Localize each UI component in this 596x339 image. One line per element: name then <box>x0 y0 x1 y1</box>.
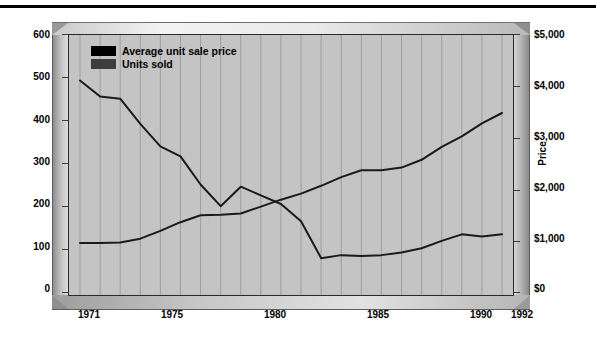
axis-tick-right <box>513 292 520 293</box>
legend-swatch-price <box>91 46 116 56</box>
x-tick-label: 1992 <box>502 309 542 320</box>
x-tick-label: 1975 <box>152 309 192 320</box>
legend-item: Units sold <box>91 58 237 70</box>
legend-label: Units sold <box>122 58 173 70</box>
series-lines <box>80 81 502 259</box>
x-axis-ticks: 1971 1975 1980 1985 1990 1992 <box>0 309 596 325</box>
x-tick-label: 1971 <box>69 309 109 320</box>
gridlines <box>80 35 502 295</box>
axis-tick-right <box>513 34 520 35</box>
y2-tick-label: $2,000 <box>534 182 582 193</box>
y-tick-label: 0 <box>10 283 50 294</box>
plot-area: Average unit sale price Units sold <box>68 34 514 296</box>
chart-figure: 600 500 400 300 200 100 0 Annual Unit Vo… <box>0 0 596 339</box>
y-tick-label: 200 <box>10 198 50 209</box>
y2-tick-label: $4,000 <box>534 80 582 91</box>
frame-bottom-slab <box>52 295 530 310</box>
series-line <box>80 81 502 259</box>
plot-canvas <box>69 35 513 295</box>
y-tick-label: 100 <box>10 241 50 252</box>
axis-tick-right <box>513 190 520 191</box>
header-rule <box>0 5 596 8</box>
y2-tick-label: $0 <box>534 283 582 294</box>
legend-item: Average unit sale price <box>91 45 237 57</box>
frame-right-wall <box>513 22 530 310</box>
x-tick-label: 1985 <box>358 309 398 320</box>
chart-3d-frame: Average unit sale price Units sold <box>52 22 530 310</box>
frame-left-wall <box>52 22 69 310</box>
y-axis-left-ticks: 600 500 400 300 200 100 0 <box>8 0 50 339</box>
y-tick-label: 300 <box>10 156 50 167</box>
axis-tick-right <box>513 138 520 139</box>
axis-tick-right <box>513 241 520 242</box>
x-tick-label: 1990 <box>461 309 501 320</box>
y2-tick-label: $1,000 <box>534 233 582 244</box>
y-tick-label: 500 <box>10 71 50 82</box>
legend-label: Average unit sale price <box>122 45 237 57</box>
y-tick-label: 600 <box>10 29 50 40</box>
series-line <box>80 113 502 243</box>
chart-legend: Average unit sale price Units sold <box>91 45 237 71</box>
x-tick-label: 1980 <box>255 309 295 320</box>
y2-tick-label: $5,000 <box>534 29 582 40</box>
y-axis-right-title: Price <box>537 124 548 184</box>
legend-swatch-units <box>91 59 116 69</box>
y-tick-label: 400 <box>10 114 50 125</box>
axis-tick-right <box>513 86 520 87</box>
